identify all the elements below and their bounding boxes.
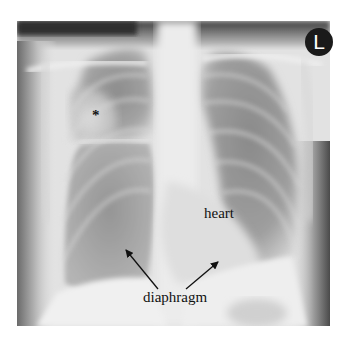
diaphragm-label: diaphragm	[143, 290, 207, 305]
heart-label: heart	[204, 206, 234, 221]
orientation-marker-left: L	[305, 28, 333, 56]
xray-film	[17, 21, 330, 326]
asterisk-annotation: *	[92, 108, 100, 123]
orientation-marker-text: L	[313, 30, 325, 54]
chest-xray-image	[17, 21, 330, 326]
